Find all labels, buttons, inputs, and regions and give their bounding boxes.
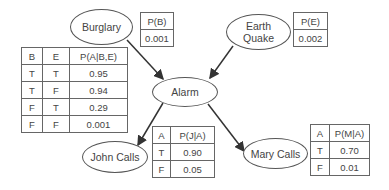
cpt-cell: F [153, 161, 171, 178]
edge-earthquake-alarm [210, 46, 233, 78]
cpt-header: A [153, 127, 171, 144]
node-mary-label: Mary Calls [251, 148, 301, 160]
cpt-header: P(A|B,E) [70, 48, 128, 65]
cpt-cell: 0.94 [70, 82, 128, 99]
cpt-header: P(M|A) [330, 125, 370, 142]
node-earthquake-label-line2: Quake [243, 32, 274, 44]
cpt-cell: 0.29 [70, 99, 128, 116]
cpt-row: T 0.70 [311, 142, 370, 159]
cpt-value: 0.002 [294, 30, 328, 47]
cpt-mary-calls: A P(M|A) T 0.70 F 0.01 [310, 124, 370, 176]
cpt-row: T F 0.94 [22, 82, 128, 99]
node-john-calls: John Calls [82, 141, 148, 173]
node-mary-calls: Mary Calls [243, 138, 308, 169]
cpt-cell: F [22, 99, 43, 116]
cpt-cell: T [43, 65, 70, 82]
cpt-header-row: A P(J|A) [153, 127, 215, 144]
node-earthquake: Earth Quake [226, 14, 291, 50]
node-burglary-label: Burglary [82, 21, 121, 33]
cpt-earthquake: P(E) 0.002 [293, 12, 328, 47]
cpt-header: P(B) [141, 13, 174, 30]
node-alarm-label: Alarm [171, 86, 198, 98]
cpt-header: B [22, 48, 43, 65]
node-burglary: Burglary [70, 9, 133, 45]
cpt-row: F 0.01 [311, 159, 370, 176]
cpt-row: F F 0.001 [22, 116, 128, 133]
cpt-cell: F [311, 159, 330, 176]
cpt-value: 0.001 [141, 30, 174, 47]
cpt-row: T 0.90 [153, 144, 215, 161]
cpt-cell: 0.001 [70, 116, 128, 133]
cpt-cell: 0.05 [171, 161, 215, 178]
cpt-cell: F [43, 82, 70, 99]
cpt-cell: 0.90 [171, 144, 215, 161]
cpt-header-row: B E P(A|B,E) [22, 48, 128, 65]
cpt-header: P(E) [294, 13, 328, 30]
cpt-header: E [43, 48, 70, 65]
cpt-john-calls: A P(J|A) T 0.90 F 0.05 [152, 126, 215, 178]
cpt-cell: T [22, 65, 43, 82]
cpt-header: P(J|A) [171, 127, 215, 144]
node-john-label: John Calls [90, 151, 139, 163]
cpt-cell: T [43, 99, 70, 116]
cpt-cell: T [22, 82, 43, 99]
cpt-cell: T [153, 144, 171, 161]
cpt-cell: 0.70 [330, 142, 370, 159]
cpt-header: A [311, 125, 330, 142]
cpt-cell: F [22, 116, 43, 133]
cpt-row: F 0.05 [153, 161, 215, 178]
node-alarm: Alarm [152, 77, 218, 107]
bayesian-network-diagram: Burglary Earth Quake Alarm John Calls Ma… [0, 0, 389, 190]
node-earthquake-label-line1: Earth [246, 20, 271, 32]
cpt-row: F T 0.29 [22, 99, 128, 116]
cpt-header-row: A P(M|A) [311, 125, 370, 142]
cpt-cell: 0.01 [330, 159, 370, 176]
cpt-cell: 0.95 [70, 65, 128, 82]
cpt-row: T T 0.95 [22, 65, 128, 82]
cpt-cell: T [311, 142, 330, 159]
cpt-alarm: B E P(A|B,E) T T 0.95 T F 0.94 F T 0.29 … [21, 47, 128, 133]
cpt-burglary: P(B) 0.001 [140, 12, 174, 47]
cpt-cell: F [43, 116, 70, 133]
